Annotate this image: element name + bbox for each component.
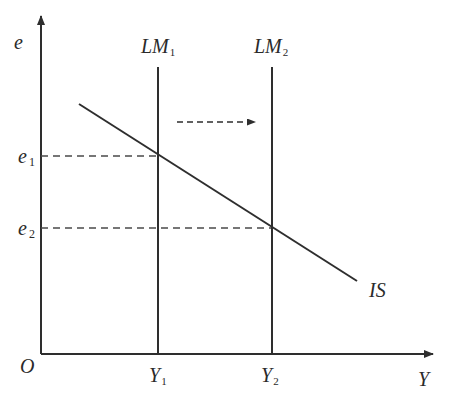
lm2-label: LM2	[253, 35, 288, 58]
origin-label: O	[20, 355, 34, 377]
is-label: IS	[368, 279, 386, 301]
y1-label: Y1	[149, 364, 167, 387]
y-axis-label: e	[14, 31, 23, 53]
is-lm-diagram: e Y O e1 e2 Y1 Y2 LM1 LM2 IS	[0, 0, 453, 404]
y2-label: Y2	[261, 364, 279, 387]
e2-label: e2	[18, 217, 35, 241]
e1-label: e1	[18, 145, 35, 169]
x-axis-label: Y	[418, 368, 431, 390]
is-curve	[79, 104, 357, 281]
lm1-label: LM1	[140, 35, 175, 58]
diagram-svg: e Y O e1 e2 Y1 Y2 LM1 LM2 IS	[0, 0, 453, 404]
